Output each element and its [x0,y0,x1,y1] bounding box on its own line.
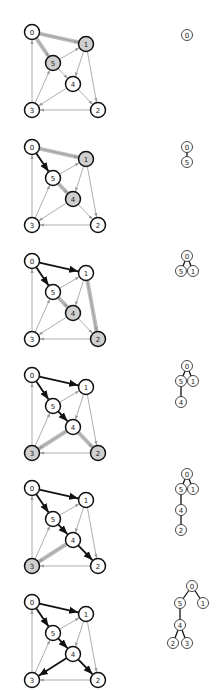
edge-0-1 [39,490,78,499]
graph-node-label: 4 [71,651,76,659]
edge-1-2 [87,621,96,672]
edge-4-2 [78,659,92,674]
edge-4-3 [39,658,67,676]
edge-3-5 [35,640,50,673]
tree-node-label: 5 [179,378,183,386]
tree-node-label: 0 [185,32,189,40]
edge-3-5 [35,70,50,103]
tree-node-label: 0 [185,363,189,371]
edge-0-5 [36,381,48,399]
edge-4-3 [39,544,67,562]
graph-node-label: 1 [84,497,88,505]
edge-1-4 [75,621,83,646]
graph-node-label: 1 [84,156,88,164]
edge-1-4 [75,166,83,191]
graph-node-label: 2 [96,222,100,230]
edge-5-1 [59,277,79,288]
edge-5-1 [59,163,79,174]
edge-4-3 [39,431,67,449]
edge-4-3 [39,203,67,221]
edge-5-4 [58,524,67,534]
edge-4-2 [78,89,92,104]
edge-1-4 [75,394,83,419]
tree-node-label: 0 [190,583,194,591]
graph-node-label: 3 [30,450,34,458]
tree-node-label: 5 [179,268,183,276]
edge-0-5 [36,494,48,512]
edge-3-5 [35,185,50,218]
graph-node-label: 3 [30,677,34,685]
tree-node-label: 1 [201,600,205,608]
graph-node-label: 4 [71,196,76,204]
edge-0-1 [39,604,78,613]
edge-4-3 [39,88,67,106]
graph-node-label: 0 [30,144,34,152]
step-panel-6: 012345051423 [25,581,209,688]
graph-node-label: 1 [84,41,88,49]
tree-node-label: 1 [191,486,195,494]
edge-4-3 [39,317,67,335]
graph-node-label: 0 [30,258,34,266]
tree-node-label: 5 [185,159,189,167]
graph-node-label: 1 [84,611,88,619]
graph-node-label: 2 [96,107,100,115]
step-panel-5: 01234505142 [25,469,199,574]
step-panel-2: 01234505 [25,140,193,233]
edge-5-4 [58,183,67,193]
tree-node-label: 5 [179,486,183,494]
edge-5-4 [58,68,67,78]
edge-1-4 [75,51,83,76]
tree-node-label: 1 [191,268,195,276]
graph-node-label: 4 [71,424,76,432]
graph-node-label: 5 [51,630,55,638]
edge-1-2 [87,507,96,558]
graph-node-label: 3 [30,563,34,571]
graph-node-label: 2 [96,336,100,344]
tree-node-label: 4 [178,622,183,630]
tree-node-label: 3 [185,640,189,648]
graph-node-label: 1 [84,384,88,392]
graph-node-label: 0 [30,29,34,37]
edge-1-4 [75,280,83,305]
tree-node-label: 4 [179,507,184,515]
edge-5-4 [58,411,67,421]
diagram-canvas: 0123450012345050123450510123450514012345… [0,0,223,690]
edge-0-5 [36,38,48,56]
graph-node-label: 3 [30,222,34,230]
edge-1-2 [87,51,96,102]
edge-0-5 [36,153,48,171]
edge-1-4 [75,507,83,532]
edge-5-4 [58,638,67,648]
graph-node-label: 1 [84,270,88,278]
edge-0-1 [39,263,78,272]
edge-5-1 [59,504,79,515]
edge-4-2 [78,545,92,560]
graph-node-label: 4 [71,310,76,318]
graph-node-label: 4 [71,81,76,89]
tree-node-label: 4 [179,399,184,407]
edge-1-2 [87,166,96,217]
graph-node-label: 5 [51,516,55,524]
edge-0-1 [39,377,78,386]
edge-0-5 [36,608,48,626]
graph-node-label: 4 [71,537,76,545]
edge-5-1 [59,618,79,629]
graph-node-label: 5 [51,403,55,411]
edge-0-5 [36,267,48,285]
edge-5-1 [59,48,79,59]
edge-0-1 [39,149,78,158]
graph-node-label: 5 [51,60,55,68]
graph-node-label: 5 [51,175,55,183]
graph-node-label: 5 [51,289,55,297]
graph-node-label: 0 [30,599,34,607]
graph-node-label: 0 [30,485,34,493]
edge-4-2 [78,432,92,447]
tree-node-label: 0 [185,253,189,261]
graph-node-label: 3 [30,336,34,344]
graph-node-label: 3 [30,107,34,115]
graph-node-label: 2 [96,450,100,458]
tree-node-label: 0 [185,144,189,152]
step-panel-1: 0123450 [25,25,193,118]
tree-node-label: 5 [178,600,182,608]
graph-node-label: 2 [96,677,100,685]
